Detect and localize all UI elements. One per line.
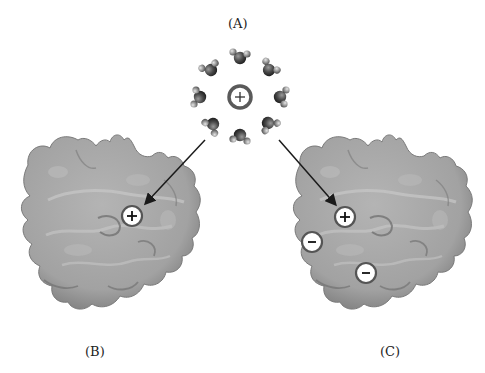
water-molecule [229,129,250,145]
water-molecule [190,86,206,107]
positive-charge-b [122,206,142,226]
label-a: (A) [228,16,248,31]
diagram-canvas [0,0,485,373]
label-c: (C) [380,344,400,359]
hydrated-ion-cluster [190,48,289,144]
protein-surface-c [293,135,472,309]
positive-charge-c [335,207,355,227]
water-molecule [199,112,225,138]
water-molecule [229,48,250,64]
water-molecule [197,56,223,80]
label-b: (B) [85,344,105,359]
water-molecule [256,111,282,137]
negative-charge-c-2 [356,263,376,283]
negative-charge-c-1 [302,232,322,252]
water-molecule [257,56,283,80]
protein-surface-b [21,135,200,309]
water-molecule [274,86,290,107]
